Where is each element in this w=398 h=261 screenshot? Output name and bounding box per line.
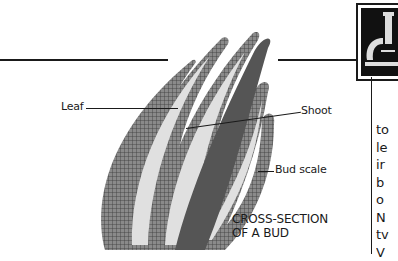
- side-line: V: [376, 244, 389, 261]
- caption-line-1: CROSS-SECTION: [232, 212, 328, 226]
- side-line: o: [376, 191, 389, 209]
- caption-line-2: OF A BUD: [232, 226, 328, 240]
- side-line: tv: [376, 226, 389, 244]
- side-line: b: [376, 174, 389, 192]
- figure-caption: CROSS-SECTION OF A BUD: [232, 212, 328, 240]
- label-bud-scale: Bud scale: [275, 163, 327, 176]
- label-shoot: Shoot: [301, 104, 332, 117]
- column-divider: [371, 77, 372, 254]
- side-line: to: [376, 121, 389, 139]
- side-line: N: [376, 209, 389, 227]
- side-column-text: to le ir b o N tv V: [376, 121, 389, 261]
- microscope-icon: [361, 8, 398, 76]
- side-line: ir: [376, 156, 389, 174]
- label-leaf: Leaf: [61, 100, 84, 113]
- leader-bud-scale: [258, 171, 274, 172]
- microscope-icon-box: [356, 3, 398, 81]
- side-line: le: [376, 139, 389, 157]
- header-rule-right: [278, 59, 358, 61]
- header-rule-left: [0, 59, 168, 61]
- leader-leaf: [86, 108, 178, 109]
